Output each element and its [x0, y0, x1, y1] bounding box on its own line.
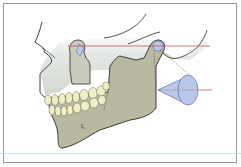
jaw-diagram — [0, 0, 241, 167]
cranial-line — [104, 14, 146, 38]
rotation-cone — [158, 75, 198, 105]
